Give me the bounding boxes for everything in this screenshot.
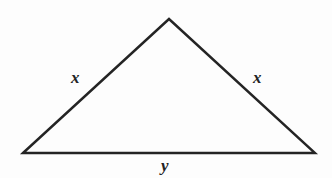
triangle-diagram: x x y: [0, 0, 332, 178]
triangle-outline: [23, 19, 315, 153]
triangle-shape: [0, 0, 332, 178]
left-side-label: x: [71, 69, 80, 86]
right-side-label: x: [253, 69, 262, 86]
base-label: y: [161, 157, 169, 174]
